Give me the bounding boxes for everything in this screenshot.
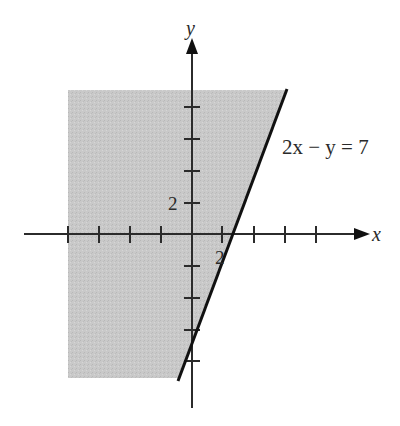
graph-canvas: y x 2 2 2x − y = 7 <box>0 0 400 426</box>
x-tick-label-2: 2 <box>215 247 225 268</box>
x-axis-arrow-icon <box>354 228 370 240</box>
y-tick-label-2: 2 <box>168 193 178 214</box>
y-axis-arrow-icon <box>186 38 198 54</box>
y-axis-label: y <box>184 17 195 40</box>
line-equation-label: 2x − y = 7 <box>282 135 369 159</box>
x-axis-label: x <box>371 223 381 245</box>
